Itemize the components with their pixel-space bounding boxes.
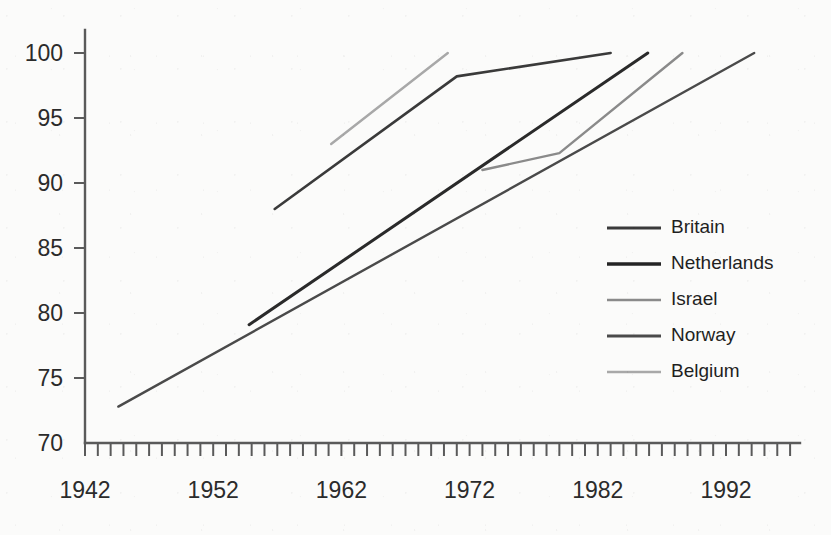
y-tick-label: 100	[25, 40, 63, 66]
y-tick-label: 95	[37, 105, 63, 131]
x-tick-label: 1952	[188, 477, 239, 503]
legend-item-britain[interactable]: Britain	[607, 216, 725, 237]
legend-label-britain: Britain	[671, 216, 725, 237]
x-tick-label: 1942	[59, 477, 110, 503]
legend-item-norway[interactable]: Norway	[607, 324, 736, 345]
percent-axis: 707580859095100	[25, 30, 85, 456]
series-line-netherlands	[249, 53, 648, 325]
legend-label-israel: Israel	[671, 288, 717, 309]
legend: BritainNetherlandsIsraelNorwayBelgium	[607, 216, 773, 381]
x-tick-label: 1972	[444, 477, 495, 503]
series-layer	[118, 53, 754, 407]
legend-item-belgium[interactable]: Belgium	[607, 360, 740, 381]
x-tick-label: 1962	[316, 477, 367, 503]
series-line-norway	[118, 53, 754, 407]
chart-canvas: 707580859095100 194219521962197219821992…	[0, 0, 831, 535]
line-chart: 707580859095100 194219521962197219821992…	[0, 0, 831, 535]
legend-item-netherlands[interactable]: Netherlands	[607, 252, 773, 273]
y-tick-label: 70	[37, 430, 63, 456]
year-axis: 194219521962197219821992	[59, 443, 800, 503]
y-tick-label: 85	[37, 235, 63, 261]
y-tick-label: 90	[37, 170, 63, 196]
legend-label-norway: Norway	[671, 324, 736, 345]
series-line-britain	[275, 53, 611, 209]
x-tick-label: 1982	[572, 477, 623, 503]
y-tick-label: 75	[37, 365, 63, 391]
x-tick-label: 1992	[700, 477, 751, 503]
legend-label-belgium: Belgium	[671, 360, 740, 381]
legend-label-netherlands: Netherlands	[671, 252, 773, 273]
series-line-belgium	[331, 53, 448, 144]
y-tick-label: 80	[37, 300, 63, 326]
series-line-israel	[482, 53, 682, 170]
legend-item-israel[interactable]: Israel	[607, 288, 717, 309]
